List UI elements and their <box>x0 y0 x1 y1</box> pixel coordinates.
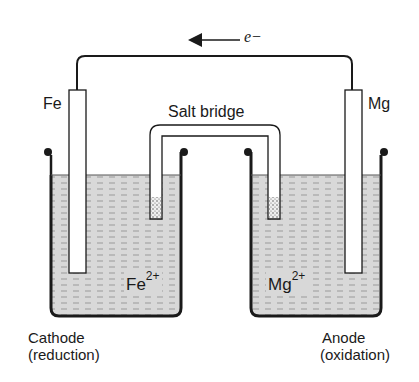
fe-ion-label: Fe2+ <box>124 272 162 295</box>
right-beaker-lip-left <box>244 148 252 156</box>
fe-electrode-label: Fe <box>43 95 62 112</box>
left-beaker-lip-right <box>180 148 188 156</box>
mg-electrode-label: Mg <box>368 95 390 112</box>
left-beaker-lip-left <box>44 148 52 156</box>
external-wire <box>77 56 352 90</box>
electron-flow-arrow <box>188 33 240 47</box>
right-beaker-lip-right <box>380 148 388 156</box>
salt-bridge-label: Salt bridge <box>168 103 245 120</box>
electron-label: e− <box>244 28 262 46</box>
galvanic-cell-diagram <box>0 0 419 382</box>
cathode-label: Cathode <box>28 329 85 346</box>
salt-bridge-plug-right <box>269 197 279 218</box>
cathode-process-label: (reduction) <box>28 346 100 363</box>
left-beaker <box>44 148 188 316</box>
mg-ion-label: Mg2+ <box>266 272 307 295</box>
anode-process-label: (oxidation) <box>320 346 390 363</box>
salt-bridge-plug-left <box>151 197 161 218</box>
fe-electrode <box>69 90 86 273</box>
mg-electrode <box>345 90 362 273</box>
anode-label: Anode <box>322 329 365 346</box>
